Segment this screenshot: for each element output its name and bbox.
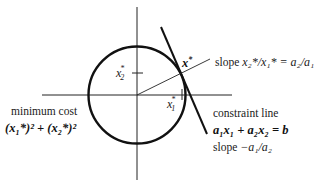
minimum-cost-label: minimum cost (11, 105, 78, 117)
constraint-slope-label: slope −a₁/a₂ (213, 140, 272, 154)
constraint-line (161, 27, 207, 134)
x1-star-label: x*1 (166, 95, 175, 113)
constraint-line-label: constraint line (213, 107, 278, 119)
slope-ratio-label: slope x₂*/x₁* = a₂/a₁ (215, 55, 314, 69)
x2-star-label: x*2 (115, 64, 124, 82)
constraint-equation: a₁x₁ + a₂x₂ = b (213, 123, 288, 137)
minimum-cost-expression: (x₁*)² + (x₂*)² (5, 121, 76, 135)
constraint-diagram: x*2 x*1 x* slope x₂*/x₁* = a₂/a₁ minimum… (0, 0, 333, 189)
